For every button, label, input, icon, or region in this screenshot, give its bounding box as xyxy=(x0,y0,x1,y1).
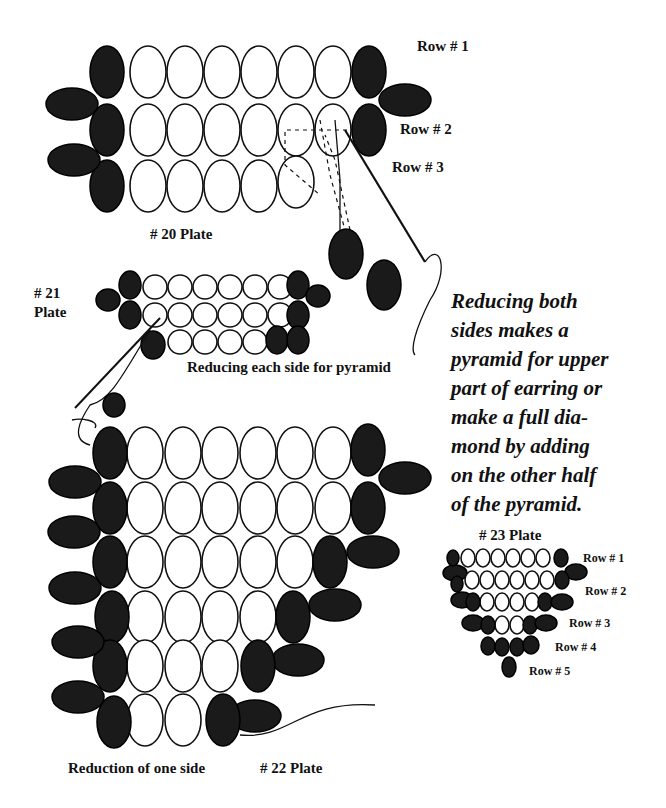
description-line: pyramid for upper xyxy=(451,345,661,374)
plate20-title: # 20 Plate xyxy=(150,226,212,243)
description-line: part of earring or xyxy=(451,374,661,403)
plate21-title-line2: Plate xyxy=(34,304,66,321)
plate23-row5-label: Row # 5 xyxy=(529,664,570,679)
description-line: mond by adding xyxy=(451,432,661,461)
plate23-row3-label: Row # 3 xyxy=(569,616,610,631)
plate21-title-line1: # 21 xyxy=(34,285,60,302)
description-line: on the other half xyxy=(451,461,661,490)
plate23-row2-label: Row # 2 xyxy=(585,584,626,599)
plate23-beads xyxy=(443,549,587,677)
description-line: make a full dia- xyxy=(451,403,661,432)
plate21-beads xyxy=(75,271,330,445)
plate20-row3-label: Row # 3 xyxy=(392,159,444,176)
plate22-title: # 22 Plate xyxy=(260,760,322,777)
plate20-row1-label: Row # 1 xyxy=(417,38,469,55)
plate23-row1-label: Row # 1 xyxy=(583,551,624,566)
description-line: of the pyramid. xyxy=(451,490,661,519)
plate20-row2-label: Row # 2 xyxy=(400,121,452,138)
plate23-title: # 23 Plate xyxy=(479,527,541,544)
plate23-row4-label: Row # 4 xyxy=(555,640,596,655)
plate22-caption: Reduction of one side xyxy=(68,760,205,777)
description-line: Reducing both xyxy=(451,287,661,316)
plate21-caption: Reducing each side for pyramid xyxy=(187,359,391,376)
description-line: sides makes a xyxy=(451,316,661,345)
plate22-beads xyxy=(48,419,431,748)
description-paragraph: Reducing both sides makes a pyramid for … xyxy=(451,287,661,519)
